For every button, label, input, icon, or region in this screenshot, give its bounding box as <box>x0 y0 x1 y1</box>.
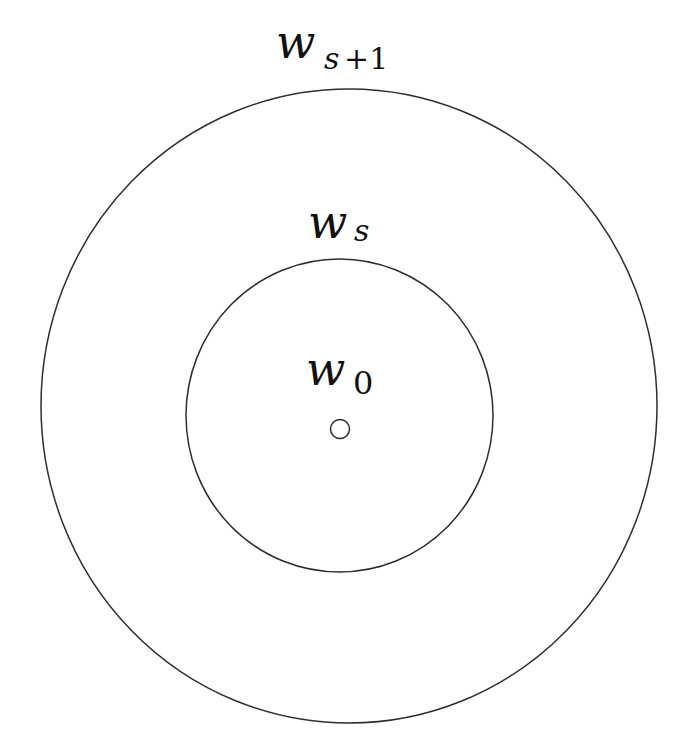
inner-circle-label: w s <box>308 195 369 249</box>
center-label-main: w <box>306 342 345 396</box>
inner-circle <box>186 259 493 572</box>
outer-circle <box>41 89 657 723</box>
center-label-sub: 0 <box>353 364 373 402</box>
outer-label-sub-s: s <box>324 41 339 76</box>
concentric-circles-diagram: w s +1 w s w 0 <box>0 0 689 750</box>
outer-label-sub-rest: +1 <box>344 41 388 76</box>
outer-circle-label: w s +1 <box>276 15 388 76</box>
inner-label-sub: s <box>354 213 369 248</box>
center-point-circle <box>331 420 350 439</box>
inner-label-main: w <box>308 195 347 249</box>
center-point-label: w 0 <box>306 342 373 402</box>
outer-label-main: w <box>276 15 315 69</box>
